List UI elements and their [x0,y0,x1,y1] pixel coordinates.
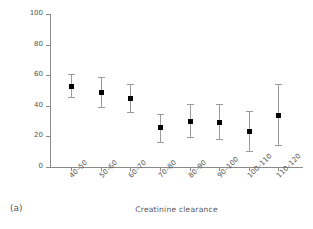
x-tick-label: 110–120 [275,152,303,180]
x-tick-label: 70–80 [157,159,178,180]
error-bar-cap-lower [216,139,223,140]
error-bar-cap-lower [246,151,253,152]
y-axis-spine [50,14,51,167]
data-point-marker [188,119,193,124]
error-bar-cap-upper [216,104,223,105]
y-tick: 40 [46,106,50,107]
error-bar-cap-lower [98,107,105,108]
y-tick-label: 0 [39,162,43,170]
y-tick: 80 [46,45,50,46]
y-tick: 60 [46,75,50,76]
error-bar-cap-upper [246,111,253,112]
x-tick-label: 50–60 [98,159,119,180]
error-bar-cap-lower [275,145,282,146]
error-bar-cap-lower [157,142,164,143]
panel-letter: (a) [10,203,23,213]
error-bar-cap-upper [127,84,134,85]
data-point-marker [158,125,163,130]
error-bar-cap-lower [127,112,134,113]
x-tick-label: 60–70 [127,159,148,180]
y-tick: 20 [46,136,50,137]
data-point-marker [128,96,133,101]
data-point-marker [69,84,74,89]
data-point-marker [217,120,222,125]
error-bar-cap-upper [275,84,282,85]
error-bar-cap-upper [157,114,164,115]
plot-area: 02040608010040–5050–6060–7070–8080–9090–… [50,14,303,167]
error-bar-cap-upper [68,74,75,75]
data-point-marker [99,90,104,95]
error-bar-cap-upper [187,104,194,105]
x-axis-spine [50,167,303,168]
y-tick-label: 100 [30,9,43,17]
error-bar-cap-lower [68,97,75,98]
data-point-marker [276,113,281,118]
y-tick-label: 20 [34,131,43,139]
y-tick: 0 [46,167,50,168]
data-point-marker [247,129,252,134]
error-bar-cap-lower [187,137,194,138]
x-axis-label: Creatinine clearance [50,205,303,214]
error-bar-cap-upper [98,77,105,78]
y-tick: 100 [46,14,50,15]
y-tick-label: 60 [34,70,43,78]
y-tick-label: 80 [34,40,43,48]
figure-panel-a: 30-day mortality 02040608010040–5050–606… [0,0,313,229]
x-tick-label: 40–50 [68,159,89,180]
x-tick-label: 100–110 [246,152,274,180]
y-tick-label: 40 [34,101,43,109]
